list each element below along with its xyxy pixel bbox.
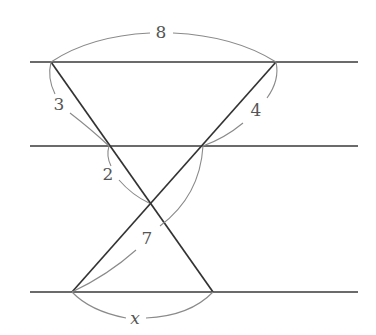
arc-left-lower-bottom xyxy=(119,180,149,203)
arc-bottom-width-left xyxy=(72,292,126,318)
label-left-upper: 3 xyxy=(54,94,65,114)
arc-top-width-right xyxy=(173,33,276,62)
transversal-top-left-to-bottom-right xyxy=(51,62,213,292)
label-top-width: 8 xyxy=(156,22,167,42)
arc-bottom-width-right xyxy=(146,292,213,318)
label-right-lower: 7 xyxy=(142,228,153,248)
label-right-upper: 4 xyxy=(251,100,262,120)
arc-right-upper-bottom xyxy=(203,123,243,146)
geometry-diagram: 8 3 4 2 7 x xyxy=(0,0,376,335)
label-left-lower: 2 xyxy=(103,164,114,184)
arc-left-lower-top xyxy=(108,146,111,166)
arc-top-width-left xyxy=(51,33,150,62)
label-bottom-width: x xyxy=(130,308,140,328)
